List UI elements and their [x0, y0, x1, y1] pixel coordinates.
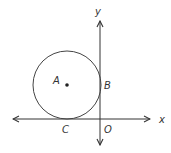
tangent-label-b: B — [104, 80, 111, 91]
origin-label-o: O — [104, 124, 112, 135]
y-axis-label: y — [94, 6, 102, 17]
x-axis-label: x — [158, 114, 165, 125]
center-point-a — [65, 83, 69, 87]
tangent-label-c: C — [62, 124, 69, 135]
diagram-canvas: y x A B C O — [0, 0, 171, 153]
center-label-a: A — [52, 75, 60, 86]
